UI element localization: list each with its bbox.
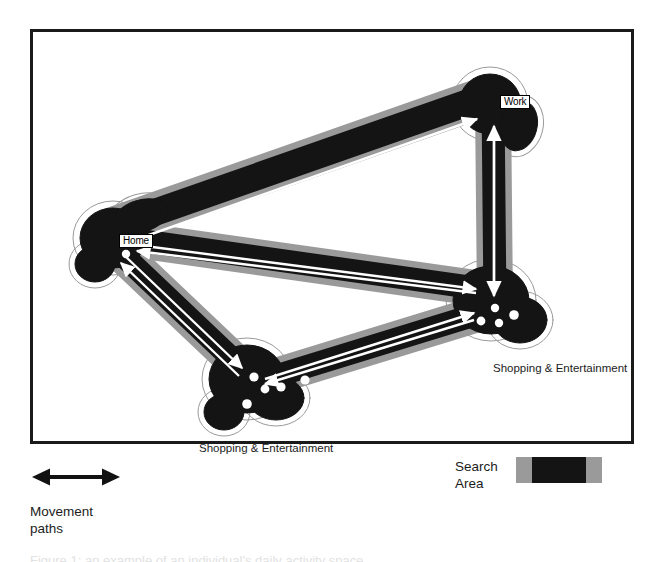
path-home-to-shopping-bottom: [125, 256, 242, 368]
caption-shopping-entertainment-right: Shopping & Entertainment: [493, 361, 627, 375]
legend-movement-paths: Movement paths: [30, 466, 210, 537]
search-area-swatch: [516, 457, 602, 483]
place-label-work: Work: [500, 95, 530, 109]
figure-caption-clipped: Figure 1: an example of an individual's …: [30, 553, 363, 562]
swatch-halo-left: [516, 457, 532, 483]
path-home-to-work: [129, 119, 477, 242]
legend-search-area: Search Area: [455, 457, 602, 492]
path-shopping-bottom-to-shopping-right: [265, 313, 474, 379]
path-shopping-bottom-to-home: [121, 263, 239, 376]
place-label-home: Home: [119, 234, 153, 248]
figure-canvas: Home Work Shopping & Entertainment Shopp…: [0, 0, 659, 562]
swatch-core: [532, 457, 586, 483]
double-headed-arrow-icon: [30, 466, 122, 488]
caption-shopping-entertainment-bottom: Shopping & Entertainment: [199, 441, 333, 455]
map-frame: Home Work Shopping & Entertainment Shopp…: [30, 29, 634, 444]
legend-movement-paths-label: Movement paths: [30, 503, 210, 537]
swatch-halo-right: [586, 457, 602, 483]
legend-search-area-label: Search Area: [455, 457, 498, 492]
